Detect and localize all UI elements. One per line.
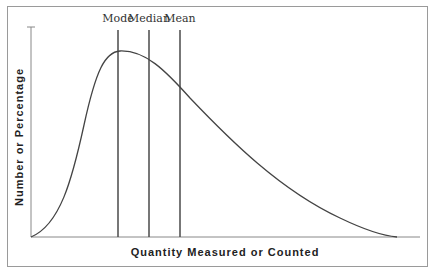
distribution-curve [31,51,397,237]
skewed-distribution-chart: Mode Median Mean Quantity Measured or Co… [0,0,436,276]
mean-label: Mean [164,12,195,25]
x-axis-title: Quantity Measured or Counted [131,246,320,258]
y-axis-title: Number or Percentage [13,68,25,206]
